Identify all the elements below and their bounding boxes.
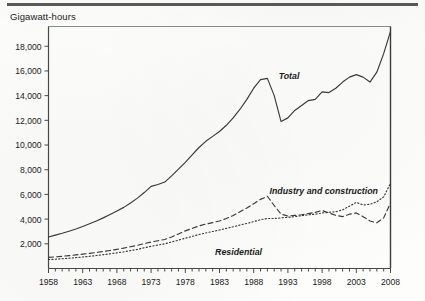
series-line-total [49,31,391,237]
annotation-industry-and-construction: Industry and construction [269,186,378,196]
x-tick-label: 1958 [39,277,58,287]
y-tick-label: 16,000 [15,66,42,76]
chart-figure: Gigawatt-hours 2,0004,0006,0008,00010,00… [0,0,425,301]
y-tick-label: 18,000 [15,42,42,52]
y-tick-label: 6,000 [20,190,42,200]
x-tick-label: 1993 [278,277,297,287]
y-tick-label: 4,000 [20,215,42,225]
x-tick-label: 1978 [176,277,195,287]
x-tick-label: 1998 [313,277,332,287]
y-tick-label: 8,000 [20,165,42,175]
x-tick-label: 1983 [210,277,229,287]
x-tick-label: 1963 [73,277,92,287]
x-tick-label: 1988 [244,277,263,287]
y-tick-label: 10,000 [15,140,42,150]
line-chart-plot: 2,0004,0006,0008,00010,00012,00014,00016… [0,0,425,301]
x-tick-label: 1968 [107,277,126,287]
x-tick-label: 2008 [381,277,400,287]
plot-frame [49,27,391,269]
annotation-total: Total [279,71,300,81]
y-tick-label: 14,000 [15,91,42,101]
x-tick-label: 2003 [347,277,366,287]
x-tick-label: 1973 [142,277,161,287]
y-tick-label: 2,000 [20,239,42,249]
annotation-residential: Residential [215,247,262,257]
y-tick-label: 12,000 [15,116,42,126]
